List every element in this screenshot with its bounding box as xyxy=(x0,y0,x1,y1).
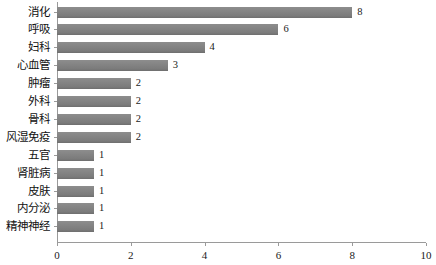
bar-value-label: 3 xyxy=(173,56,178,73)
bar xyxy=(57,150,94,161)
bar-row: 肿瘤2 xyxy=(57,75,429,93)
category-label: 消化 xyxy=(0,4,50,22)
bar-value-label: 8 xyxy=(357,3,362,20)
category-label: 肿瘤 xyxy=(0,75,50,93)
bar-value-label: 2 xyxy=(136,128,141,145)
bar xyxy=(57,114,131,125)
bar xyxy=(57,186,94,197)
x-axis-tick xyxy=(57,243,58,246)
category-label: 肾脏病 xyxy=(0,165,50,183)
category-label: 妇科 xyxy=(0,39,50,57)
category-label: 五官 xyxy=(0,147,50,165)
x-axis-tick-label: 4 xyxy=(193,248,217,262)
bar-row: 外科2 xyxy=(57,93,429,111)
bar xyxy=(57,60,168,71)
category-label: 内分泌 xyxy=(0,200,50,218)
bar-value-label: 2 xyxy=(136,92,141,109)
category-label: 骨科 xyxy=(0,111,50,129)
bar xyxy=(57,42,205,53)
bar-value-label: 1 xyxy=(99,217,104,234)
x-axis-tick xyxy=(352,243,353,246)
bar xyxy=(57,24,278,35)
category-label: 皮肤 xyxy=(0,183,50,201)
bar xyxy=(57,168,94,179)
bar-value-label: 2 xyxy=(136,110,141,127)
bar xyxy=(57,132,131,143)
bar xyxy=(57,7,352,18)
category-label: 心血管 xyxy=(0,57,50,75)
category-label: 外科 xyxy=(0,93,50,111)
bar-row: 内分泌1 xyxy=(57,200,429,218)
x-axis-tick-label: 0 xyxy=(45,248,69,262)
bar-value-label: 1 xyxy=(99,164,104,181)
bar-row: 呼吸6 xyxy=(57,21,429,39)
bar-row: 肾脏病1 xyxy=(57,165,429,183)
x-axis-line xyxy=(57,242,426,243)
bar-row: 五官1 xyxy=(57,147,429,165)
x-axis-tick xyxy=(278,243,279,246)
category-label: 精神神经 xyxy=(0,218,50,236)
bar xyxy=(57,203,94,214)
bar-row: 皮肤1 xyxy=(57,183,429,201)
x-axis-tick xyxy=(426,243,427,246)
x-axis-tick xyxy=(131,243,132,246)
bar-value-label: 1 xyxy=(99,146,104,163)
x-axis-tick xyxy=(205,243,206,246)
bar xyxy=(57,221,94,232)
x-axis-tick-label: 10 xyxy=(414,248,436,262)
bar-value-label: 1 xyxy=(99,182,104,199)
x-axis-tick-label: 8 xyxy=(340,248,364,262)
x-axis-tick-label: 2 xyxy=(119,248,143,262)
bar-value-label: 2 xyxy=(136,74,141,91)
category-label: 风湿免疫 xyxy=(0,129,50,147)
bar-value-label: 1 xyxy=(99,199,104,216)
bar xyxy=(57,96,131,107)
category-label: 呼吸 xyxy=(0,21,50,39)
bar-row: 骨科2 xyxy=(57,111,429,129)
bar-row: 风湿免疫2 xyxy=(57,129,429,147)
bar-row: 精神神经1 xyxy=(57,218,429,236)
bar xyxy=(57,78,131,89)
bar-row: 妇科4 xyxy=(57,39,429,57)
bar-value-label: 6 xyxy=(283,20,288,37)
x-axis-tick-label: 6 xyxy=(266,248,290,262)
bar-row: 心血管3 xyxy=(57,57,429,75)
bar-row: 消化8 xyxy=(57,4,429,22)
bar-value-label: 4 xyxy=(210,38,215,55)
